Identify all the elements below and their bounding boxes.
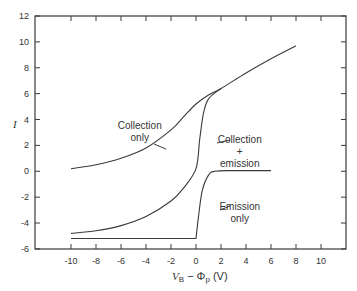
x-tick-label: -6: [117, 256, 125, 266]
annotation-text: Collection: [218, 134, 262, 145]
y-tick-label: -6: [21, 244, 29, 254]
y-tick-label: -4: [21, 218, 29, 228]
y-tick-label: 0: [24, 166, 29, 176]
y-tick-label: 6: [24, 89, 29, 99]
annotation-text: Collection: [118, 120, 162, 131]
iv-characteristic-chart: -10-8-6-4-20246810-6-4-2024681012 Collec…: [0, 0, 357, 291]
x-axis-label: VB − Φp (V): [172, 270, 228, 284]
annotation-text: Emission: [219, 201, 260, 212]
annotation-text: +: [237, 146, 243, 157]
annotation-text: emission: [220, 158, 259, 169]
x-tick-label: 6: [268, 256, 273, 266]
x-tick-label: 2: [218, 256, 223, 266]
y-tick-label: 10: [19, 37, 29, 47]
y-tick-label: 12: [19, 11, 29, 21]
annotation-text: only: [231, 213, 249, 224]
plot-border: [35, 16, 346, 249]
x-tick-label: 4: [243, 256, 248, 266]
x-tick-label: -2: [167, 256, 175, 266]
annotations: CollectiononlyCollection+emissionEmissio…: [118, 120, 262, 225]
annotation-text: only: [131, 132, 149, 143]
x-tick-label: -8: [92, 256, 100, 266]
x-tick-label: -4: [142, 256, 150, 266]
plot-frame: [35, 16, 346, 249]
x-tick-label: 10: [316, 256, 326, 266]
y-tick-label: 2: [24, 140, 29, 150]
y-tick-label: 4: [24, 115, 29, 125]
y-tick-label: -2: [21, 192, 29, 202]
y-axis-label: I: [12, 118, 18, 130]
y-tick-label: 8: [24, 63, 29, 73]
axis-ticks: -10-8-6-4-20246810-6-4-2024681012: [19, 11, 346, 266]
curve-collection-only: [71, 46, 296, 169]
x-tick-label: 0: [193, 256, 198, 266]
x-tick-label: -10: [64, 256, 77, 266]
curve-collection-emission: [71, 88, 221, 233]
x-tick-label: 8: [293, 256, 298, 266]
data-curves: [71, 46, 296, 239]
